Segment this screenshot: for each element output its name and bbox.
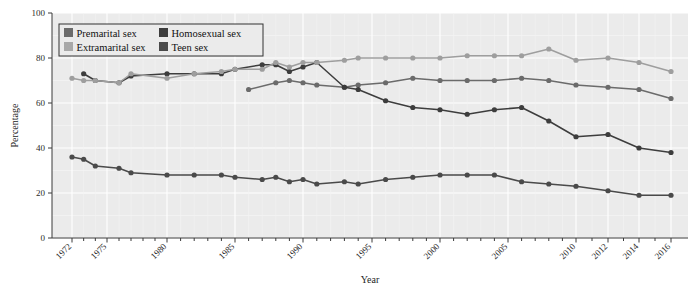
- series-point-2: [465, 112, 470, 117]
- series-point-0: [636, 87, 641, 92]
- series-point-0: [546, 78, 551, 83]
- series-point-3: [128, 71, 133, 76]
- series-point-0: [273, 80, 278, 85]
- series-point-3: [605, 55, 610, 60]
- series-point-3: [219, 69, 224, 74]
- series-point-2: [287, 69, 292, 74]
- series-point-3: [465, 53, 470, 58]
- series-point-3: [69, 76, 74, 81]
- series-point-3: [192, 71, 197, 76]
- series-point-1: [383, 177, 388, 182]
- series-point-1: [192, 172, 197, 177]
- series-point-1: [410, 175, 415, 180]
- series-point-1: [314, 181, 319, 186]
- series-point-3: [314, 60, 319, 65]
- series-point-3: [636, 60, 641, 65]
- series-point-2: [573, 134, 578, 139]
- series-point-1: [605, 188, 610, 193]
- series-point-2: [605, 132, 610, 137]
- series-point-2: [492, 107, 497, 112]
- y-tick-label: 20: [36, 188, 46, 198]
- series-point-3: [492, 53, 497, 58]
- x-tick-label: 1975: [89, 241, 109, 261]
- y-tick-label: 100: [32, 8, 46, 18]
- series-point-3: [410, 55, 415, 60]
- series-point-3: [573, 58, 578, 63]
- series-point-3: [116, 80, 121, 85]
- series-point-0: [314, 82, 319, 87]
- legend-swatch-3: [159, 42, 168, 51]
- x-axis-title: Year: [361, 274, 380, 285]
- series-point-2: [519, 105, 524, 110]
- series-point-1: [116, 166, 121, 171]
- series-point-0: [287, 78, 292, 83]
- series-point-1: [437, 172, 442, 177]
- series-point-0: [668, 96, 673, 101]
- legend-label-2: Extramarital sex: [77, 42, 147, 53]
- series-point-0: [437, 78, 442, 83]
- series-point-1: [69, 154, 74, 159]
- series-point-1: [232, 175, 237, 180]
- series-point-3: [232, 67, 237, 72]
- series-point-1: [356, 181, 361, 186]
- series-point-1: [128, 170, 133, 175]
- series-point-0: [300, 80, 305, 85]
- series-point-1: [492, 172, 497, 177]
- series-point-1: [573, 184, 578, 189]
- series-point-2: [342, 85, 347, 90]
- x-tick-label: 2014: [621, 241, 641, 261]
- legend-swatch-0: [64, 28, 73, 37]
- series-point-3: [164, 76, 169, 81]
- x-tick-label: 1980: [149, 241, 169, 261]
- series-point-3: [546, 46, 551, 51]
- series-point-3: [342, 58, 347, 63]
- series-point-2: [636, 145, 641, 150]
- series-point-3: [437, 55, 442, 60]
- series-point-2: [546, 118, 551, 123]
- line-chart: 0204060801001972197519801985199019952000…: [0, 0, 692, 294]
- series-point-1: [300, 177, 305, 182]
- series-point-1: [465, 172, 470, 177]
- series-point-1: [287, 179, 292, 184]
- series-point-0: [605, 85, 610, 90]
- series-point-1: [636, 193, 641, 198]
- series-point-1: [260, 177, 265, 182]
- x-tick-label: 2010: [558, 241, 578, 261]
- x-tick-label: 1972: [54, 241, 74, 261]
- series-point-3: [287, 64, 292, 69]
- y-tick-label: 0: [41, 233, 46, 243]
- series-point-2: [410, 105, 415, 110]
- series-point-2: [164, 71, 169, 76]
- series-point-3: [273, 60, 278, 65]
- series-point-2: [437, 107, 442, 112]
- y-tick-label: 40: [36, 143, 46, 153]
- legend-label-3: Teen sex: [172, 42, 210, 53]
- y-tick-label: 80: [36, 53, 46, 63]
- series-point-1: [81, 157, 86, 162]
- legend-swatch-2: [64, 42, 73, 51]
- x-tick-label: 2012: [590, 241, 610, 261]
- series-point-2: [356, 87, 361, 92]
- series-point-2: [668, 150, 673, 155]
- series-point-0: [573, 82, 578, 87]
- series-point-0: [492, 78, 497, 83]
- series-point-1: [342, 179, 347, 184]
- y-tick-label: 60: [36, 98, 46, 108]
- series-point-3: [668, 69, 673, 74]
- series-point-1: [546, 181, 551, 186]
- x-tick-label: 1990: [285, 241, 305, 261]
- series-point-1: [668, 193, 673, 198]
- series-point-0: [383, 80, 388, 85]
- x-tick-label: 2016: [653, 241, 673, 261]
- y-axis-title: Percentage: [9, 103, 20, 147]
- series-point-1: [93, 163, 98, 168]
- series-point-3: [356, 55, 361, 60]
- legend-swatch-1: [159, 28, 168, 37]
- series-point-2: [260, 62, 265, 67]
- series-point-3: [519, 53, 524, 58]
- series-point-3: [260, 67, 265, 72]
- series-point-1: [219, 172, 224, 177]
- series-point-3: [93, 78, 98, 83]
- chart-container: 0204060801001972197519801985199019952000…: [0, 0, 692, 294]
- x-tick-label: 2005: [490, 241, 510, 261]
